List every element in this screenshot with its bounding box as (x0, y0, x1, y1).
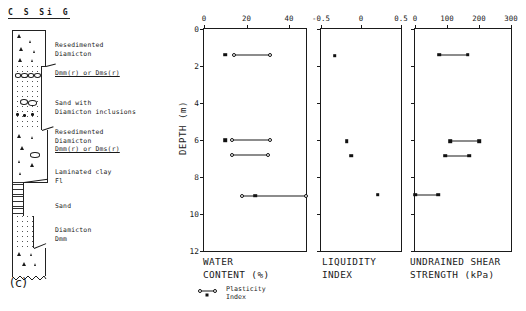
plasticity-index-symbol-icon (196, 286, 222, 296)
litho-unit-sand (12, 216, 34, 248)
x-axis-tick (447, 25, 448, 29)
litho-label-diamicton-upper: Resedimented Diamicton (55, 41, 104, 58)
x-axis-tick-label: 200 (472, 14, 485, 23)
depth-axis-tick (411, 103, 415, 104)
data-point-marker (266, 153, 270, 157)
litho-label-sand: Sand (55, 202, 71, 211)
depth-axis-tick-label: 0 (194, 25, 204, 34)
axis-title-shear-strength: UNDRAINED SHEAR STRENGTH (kPa) (410, 256, 501, 281)
plot-liquidity-index: -0.500.5 (320, 28, 402, 252)
data-range-line (439, 54, 468, 55)
litho-base-ragged (12, 275, 58, 282)
x-axis-tick (289, 25, 290, 29)
x-axis-tick (204, 25, 205, 29)
depth-axis-tick-label: 8 (194, 173, 204, 182)
data-range-line (234, 54, 270, 55)
data-point-marker (477, 139, 481, 143)
data-range-line (445, 155, 469, 156)
litho-unit-laminated-clay (12, 182, 24, 216)
data-point-marker (444, 154, 448, 158)
data-range-line (232, 140, 270, 141)
depth-axis-tick-label: 4 (194, 99, 204, 108)
depth-axis-tick (411, 29, 415, 30)
depth-axis-tick (317, 251, 321, 252)
depth-axis-tick-label: 10 (190, 210, 204, 219)
data-point-marker (436, 193, 440, 197)
depth-axis-tick (411, 177, 415, 178)
data-range-line (450, 140, 479, 141)
data-point-marker (268, 53, 272, 57)
litho-label-code-upper: Dmm(r) or Dms(r) (55, 69, 120, 78)
x-axis-tick (479, 25, 480, 29)
data-point-marker (345, 139, 349, 143)
data-point-marker (466, 53, 470, 57)
litho-unit-diamicton-middle (12, 130, 48, 182)
depth-axis-title: DEPTH (m) (178, 101, 188, 155)
litho-unit-diamicton-upper (12, 30, 46, 66)
data-point-marker (448, 139, 452, 143)
depth-axis-tick (411, 140, 415, 141)
depth-axis-tick-label: 12 (190, 247, 204, 256)
depth-axis-tick (411, 214, 415, 215)
x-axis-tick-label: 0 (359, 14, 363, 23)
litho-unit-sand-with-inclusions (12, 66, 42, 130)
litho-label-diamicton-basal: Diamicton Dmm (55, 226, 91, 243)
data-point-marker (223, 53, 227, 57)
legend-plasticity-index: Plasticity Index (196, 285, 266, 302)
depth-axis-tick (411, 251, 415, 252)
depth-axis-tick (317, 29, 321, 30)
x-axis-tick-label: 0.5 (394, 14, 407, 23)
leader-line-1 (46, 64, 56, 67)
grain-size-header: C S Si G (8, 8, 70, 19)
plot-shear-strength: 0100200300 (414, 28, 512, 252)
depth-axis-tick (317, 66, 321, 67)
data-point-marker (268, 138, 272, 142)
litho-label-diamicton-middle: Resedimented Diamicton (55, 128, 104, 145)
data-range-line (242, 195, 306, 196)
axis-title-water-content: WATER CONTENT (%) (203, 256, 270, 281)
depth-axis-tick (317, 177, 321, 178)
data-point-marker (333, 54, 337, 58)
data-point-marker (350, 154, 354, 158)
data-range-line (232, 154, 268, 155)
data-point-marker (232, 53, 236, 57)
depth-axis-tick (317, 140, 321, 141)
x-axis-tick (415, 25, 416, 29)
x-axis-tick-label: 0 (202, 14, 206, 23)
data-point-marker (240, 194, 244, 198)
litho-label-code-middle: Dmm(r) or Dms(r) (55, 145, 120, 154)
x-axis-tick-label: -0.5 (312, 14, 330, 23)
depth-axis-tick (411, 66, 415, 67)
plot-water-content: 02040024681012 (203, 28, 307, 252)
x-axis-tick-label: 20 (242, 14, 251, 23)
x-axis-tick (247, 25, 248, 29)
x-axis-tick (511, 25, 512, 29)
x-axis-tick-label: 0 (413, 14, 417, 23)
x-axis-tick (361, 25, 362, 29)
data-point-marker (413, 193, 417, 197)
depth-axis-tick (317, 103, 321, 104)
data-point-marker (223, 138, 227, 142)
data-point-marker (468, 154, 472, 158)
litho-label-sand-with-inclusions: Sand with Diamicton inclusions (55, 99, 136, 116)
x-axis-tick (401, 25, 402, 29)
data-point-marker (376, 193, 380, 197)
litho-label-laminated-clay: Laminated clay Fl (55, 168, 112, 185)
lithology-log (12, 30, 58, 252)
x-axis-tick-label: 300 (504, 14, 517, 23)
data-point-marker (230, 138, 234, 142)
data-point-marker (437, 53, 441, 57)
data-range-line (415, 194, 438, 195)
legend-label: Plasticity Index (226, 285, 266, 302)
x-axis-tick-label: 40 (285, 14, 294, 23)
x-axis-tick-label: 100 (440, 14, 453, 23)
data-point-marker (230, 153, 234, 157)
depth-axis-tick-label: 6 (194, 136, 204, 145)
x-axis-tick (321, 25, 322, 29)
depth-axis-tick-label: 2 (194, 62, 204, 71)
axis-title-liquidity-index: LIQUIDITY INDEX (322, 256, 376, 281)
litho-unit-diamicton-basal (12, 248, 46, 276)
depth-axis-tick (317, 214, 321, 215)
data-point-marker (304, 194, 308, 198)
